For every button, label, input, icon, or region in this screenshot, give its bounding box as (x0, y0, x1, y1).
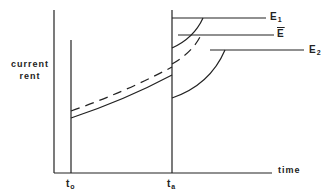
lower-solid-curve-post (172, 50, 225, 98)
solid-rent-curve-pre (71, 75, 172, 118)
e1-sub: 1 (278, 16, 283, 23)
e1-label: E1 (270, 11, 283, 23)
ebar-label: E (277, 28, 285, 39)
upper-solid-curve-post (172, 18, 203, 48)
e2-label: E2 (309, 44, 322, 56)
y-axis-label: current rent (10, 58, 50, 82)
e2-sub: 2 (317, 49, 322, 56)
y-axis-label-line1: current (10, 58, 50, 70)
ta-label: ta (167, 178, 176, 190)
e2-base: E (309, 44, 317, 55)
y-axis-label-line2: rent (10, 70, 50, 82)
t0-label: to (66, 178, 76, 190)
dashed-rent-curve-pre (71, 67, 172, 111)
e1-base: E (270, 11, 278, 22)
ta-sub: a (171, 183, 176, 190)
t0-sub: o (70, 183, 75, 190)
x-axis-label: time (278, 165, 301, 175)
ebar-base: E (277, 28, 285, 39)
